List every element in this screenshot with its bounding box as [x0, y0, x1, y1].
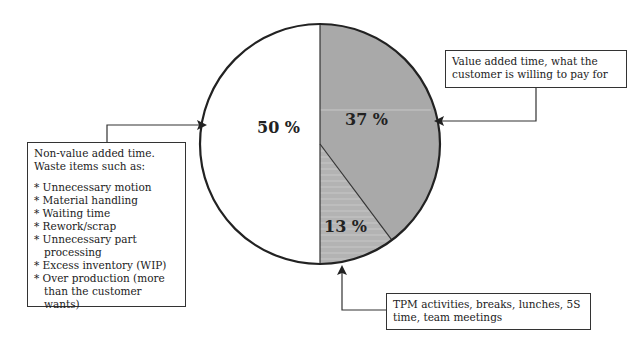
- list-item: * Material handling: [34, 194, 179, 207]
- annotation-non-value-added: Non-value added time. Waste items such a…: [27, 142, 186, 307]
- label-13: 13 %: [324, 217, 367, 236]
- connector-bottom: [342, 272, 386, 310]
- list-item: * Excess inventory (WIP): [34, 259, 179, 272]
- list-item: * Unnecessary motion: [34, 181, 179, 194]
- list-item: * Rework/scrap: [34, 220, 179, 233]
- annotation-text: TPM activities, breaks, lunches, 5S time…: [393, 298, 584, 324]
- list-item: * Waiting time: [34, 207, 179, 220]
- annotation-value-added: Value added time, what the customer is w…: [445, 50, 627, 88]
- connector-right: [441, 87, 536, 121]
- annotation-text: Value added time, what the customer is w…: [452, 55, 620, 81]
- label-50: 50 %: [257, 118, 300, 137]
- annotation-text: Non-value added time. Waste items such a…: [34, 147, 179, 173]
- list-item: * Unnecessary part processing: [34, 233, 179, 259]
- waste-items-list: * Unnecessary motion * Material handling…: [34, 181, 179, 311]
- list-item: * Over production (more than the custome…: [34, 272, 179, 311]
- label-37: 37 %: [345, 110, 388, 129]
- connector-left: [107, 125, 200, 142]
- slice-non-value-added: [200, 24, 320, 264]
- annotation-tpm: TPM activities, breaks, lunches, 5S time…: [386, 293, 591, 330]
